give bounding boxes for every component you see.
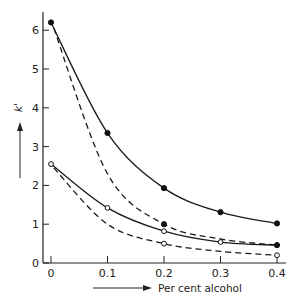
y-tick-label: 1: [32, 218, 39, 231]
series-group: [48, 20, 279, 258]
filled-point-marker: [274, 221, 279, 226]
axes: 012345600.10.20.30.4: [32, 12, 286, 280]
y-tick-label: 3: [32, 141, 39, 154]
filled-point-marker: [161, 222, 166, 227]
filled-point-marker: [161, 186, 166, 191]
y-tick-label: 5: [32, 63, 39, 76]
filled-solid-line: [51, 22, 277, 223]
open-point-marker: [162, 241, 167, 246]
filled-point-marker: [48, 20, 53, 25]
open-point-marker: [162, 229, 167, 234]
x-tick-label: 0.2: [155, 267, 173, 280]
y-tick-label: 6: [32, 24, 39, 37]
x-tick-label: 0: [48, 267, 55, 280]
y-tick-label: 4: [32, 102, 39, 115]
x-axis-label: Per cent alcohol: [158, 282, 242, 294]
filled-dashed-line: [54, 28, 277, 245]
x-tick-label: 0.1: [99, 267, 117, 280]
x-tick-label: 0.3: [212, 267, 230, 280]
x-tick-label: 0.4: [268, 267, 286, 280]
open-point-marker: [275, 253, 280, 258]
open-point-marker: [218, 240, 223, 245]
filled-point-marker: [218, 210, 223, 215]
x-axis-arrowhead-icon: [143, 285, 152, 291]
y-tick-label: 0: [32, 257, 39, 270]
y-axis-arrowhead-icon: [17, 122, 23, 131]
filled-point-marker: [105, 130, 110, 135]
open-point-marker: [105, 206, 110, 211]
y-tick-label: 2: [32, 179, 39, 192]
open-point-marker: [49, 162, 54, 167]
axis-labels: Per cent alcohol k': [12, 103, 242, 294]
line-chart: 012345600.10.20.30.4 Per cent alcohol k': [0, 0, 296, 303]
y-axis-label: k': [12, 103, 24, 112]
